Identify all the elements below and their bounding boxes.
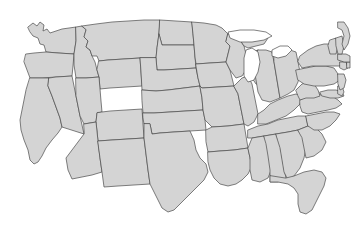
state-az[interactable]: Arizona <box>66 122 102 179</box>
state-or[interactable]: Oregon <box>24 52 74 78</box>
state-nd[interactable]: North Dakota <box>159 20 194 45</box>
state-ma[interactable]: Massachusetts <box>338 54 350 62</box>
us-state-map: WashingtonOregonCaliforniaNevadaIdahoMon… <box>0 0 352 228</box>
state-la[interactable]: Louisiana <box>208 148 252 186</box>
state-mt[interactable]: Montana <box>82 20 160 61</box>
state-co[interactable]: Colorado <box>96 109 144 141</box>
state-wa[interactable]: Washington <box>28 22 76 54</box>
state-pa[interactable]: Pennsylvania <box>296 66 340 86</box>
state-nm[interactable]: New Mexico <box>98 138 150 187</box>
us-map-container: WashingtonOregonCaliforniaNevadaIdahoMon… <box>0 0 352 228</box>
state-wy[interactable]: Wyoming <box>97 58 142 89</box>
state-mn[interactable]: Minnesota <box>192 22 230 64</box>
state-nc[interactable]: North Carolina <box>306 112 340 130</box>
state-nj[interactable]: New Jersey <box>338 74 346 90</box>
state-ok[interactable]: Oklahoma <box>143 110 206 134</box>
state-ri[interactable]: Rhode Island <box>347 62 350 68</box>
state-ar[interactable]: Arkansas <box>206 124 248 152</box>
states-layer: WashingtonOregonCaliforniaNevadaIdahoMon… <box>20 20 350 214</box>
state-tx[interactable]: Texas <box>144 124 208 212</box>
